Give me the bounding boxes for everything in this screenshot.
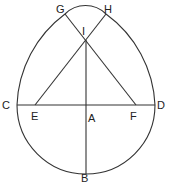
label-F: F	[130, 110, 137, 122]
line-FG	[65, 14, 136, 105]
label-C: C	[2, 99, 10, 111]
label-I: I	[82, 25, 85, 37]
line-EH	[35, 14, 106, 105]
label-G: G	[56, 3, 65, 15]
label-A: A	[88, 112, 96, 124]
left-arc	[17, 14, 65, 105]
label-E: E	[31, 110, 38, 122]
label-H: H	[104, 3, 112, 15]
top-arc	[65, 6, 106, 14]
diagram-canvas: C D E A F B G H I	[0, 0, 172, 185]
label-B: B	[81, 172, 88, 184]
right-arc	[106, 14, 155, 105]
egg-oval-diagram: C D E A F B G H I	[0, 0, 172, 185]
label-D: D	[157, 99, 165, 111]
